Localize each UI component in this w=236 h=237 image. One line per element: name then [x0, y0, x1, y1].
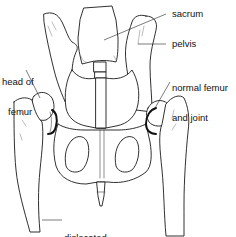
label-normal-femur-line1: normal femur	[172, 83, 228, 93]
label-sacrum: sacrum	[172, 9, 203, 19]
label-head-of-femur-line1: head of	[2, 77, 34, 87]
label-dislocated-femur-line1: dislocated	[64, 233, 107, 237]
label-normal-femur-and-joint: normal femur and joint	[172, 63, 228, 143]
hip-dislocation-diagram: sacrum pelvis head of femur normal femur…	[0, 0, 236, 237]
label-normal-femur-line2: and joint	[172, 113, 228, 123]
label-head-of-femur-line2: femur	[2, 107, 34, 117]
label-pelvis: pelvis	[172, 39, 196, 49]
label-head-of-femur: head of femur	[2, 57, 34, 137]
label-dislocated-femur: dislocated femur	[64, 213, 107, 237]
sacrum	[78, 6, 118, 64]
tail-vertebrae	[97, 182, 105, 206]
